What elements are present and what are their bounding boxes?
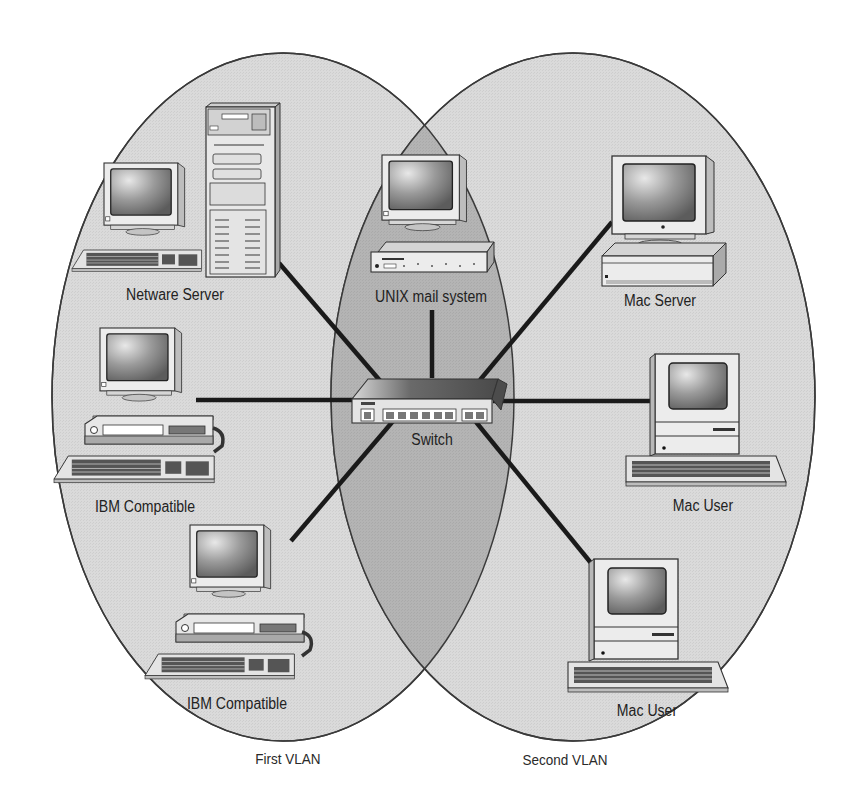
unix-mail-system-label: UNIX mail system [369,288,494,306]
tower-server-icon [206,103,280,277]
ibm-compatible-2-label: IBM Compatible [180,695,294,713]
unix-base-unit [371,242,494,272]
ibm-compatible-1-label: IBM Compatible [88,498,202,516]
mac-user-1-label: Mac User [663,497,742,515]
mac-user-2-label: Mac User [607,702,686,720]
netware-server-label: Netware Server [122,286,228,304]
vlan-network-diagram [0,0,852,799]
mac-server-cpu [602,243,726,286]
first-vlan-label: First VLAN [243,750,333,767]
mac-server-icon[interactable] [602,156,726,286]
mac-server-label: Mac Server [616,292,704,310]
mac-server-monitor [612,156,714,248]
network-switch-icon[interactable] [352,379,507,423]
second-vlan-label: Second VLAN [516,751,615,768]
switch-label: Switch [401,431,463,449]
